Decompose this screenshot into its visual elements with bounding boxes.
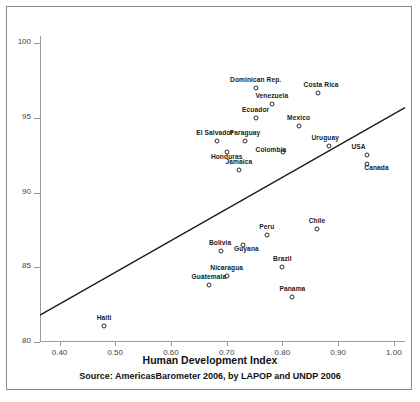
data-point-label: USA [351, 143, 365, 150]
data-point [243, 139, 248, 144]
data-point [314, 227, 319, 232]
data-point-label: Guatemala [192, 273, 227, 280]
y-tick-label: 80 [22, 336, 31, 345]
data-point [253, 86, 258, 91]
data-point-label: Mexico [287, 114, 310, 121]
data-point-label: Ecuador [242, 106, 269, 113]
data-point-label: Nicaragua [210, 264, 243, 271]
data-point [206, 283, 211, 288]
source-note: Source: AmericasBarometer 2006, by LAPOP… [7, 371, 413, 381]
data-point [290, 295, 295, 300]
y-tick-label: 90 [22, 187, 31, 196]
data-point [280, 265, 285, 270]
data-point-label: Peru [259, 223, 274, 230]
data-point-label: Panama [279, 285, 305, 292]
data-point-label: Canada [364, 164, 388, 171]
chart-frame: 80859095100 0.400.500.600.700.800.901.00… [6, 6, 412, 390]
data-point-label: Brazil [273, 255, 292, 262]
data-point-label: Haiti [97, 314, 112, 321]
data-point [236, 167, 241, 172]
data-point [269, 101, 274, 106]
data-point [214, 139, 219, 144]
data-point [327, 143, 332, 148]
data-point-label: Costa Rica [304, 81, 339, 88]
x-axis-title: Human Development Index [7, 354, 413, 366]
data-point-label: Venezuela [255, 92, 288, 99]
data-point-label: Jamaica [226, 158, 253, 165]
data-point-label: Bolivia [209, 239, 231, 246]
data-point-label: Guyana [234, 245, 259, 252]
data-point [316, 90, 321, 95]
y-tick-label: 100 [18, 37, 31, 46]
data-point-label: Uruguay [311, 134, 338, 141]
y-tick-80: 80 [34, 342, 40, 343]
data-point-label: Paraguay [230, 129, 261, 136]
scatter-plot-area: Dominican Rep.Costa RicaVenezuelaEcuador… [40, 36, 405, 341]
data-point [364, 152, 369, 157]
y-tick-label: 95 [22, 112, 31, 121]
data-point-label: Colombia [256, 146, 287, 153]
data-point [264, 233, 269, 238]
data-point [102, 324, 107, 329]
data-point-label: Chile [309, 217, 326, 224]
data-point-label: El Salvador [196, 129, 233, 136]
figure-container: 80859095100 0.400.500.600.700.800.901.00… [0, 0, 420, 402]
data-point [296, 124, 301, 129]
y-tick-label: 85 [22, 261, 31, 270]
data-point-label: Dominican Rep. [230, 76, 281, 83]
data-point [253, 116, 258, 121]
data-point [219, 248, 224, 253]
